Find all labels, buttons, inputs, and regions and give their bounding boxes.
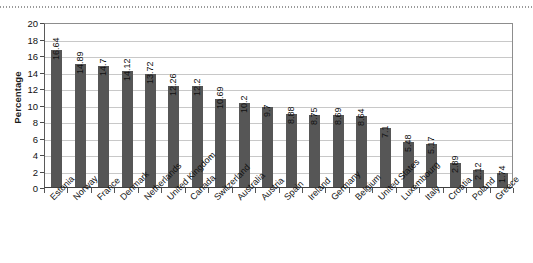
y-axis-tick-label: 4 [16, 150, 38, 161]
gridline [45, 41, 512, 42]
gridline [45, 90, 512, 91]
bar-value-label: 14.7 [98, 58, 108, 76]
bar-value-label: 9.7 [262, 104, 272, 117]
gridline [45, 123, 512, 124]
y-axis-tick-label: 20 [16, 18, 38, 29]
y-axis-tick-label: 12 [16, 84, 38, 95]
bar [98, 66, 109, 187]
bar-value-label: 2.12 [473, 162, 483, 180]
gridline [45, 173, 512, 174]
y-axis-tick-mark [40, 139, 44, 140]
bar-value-label: 12.26 [168, 73, 178, 96]
y-axis-tick-mark [40, 155, 44, 156]
gridline [45, 140, 512, 141]
y-axis-tick-mark [40, 73, 44, 74]
y-axis-tick-mark [40, 56, 44, 57]
bar-chart: Percentage 16.6414.8914.714.1213.7212.26… [0, 0, 533, 263]
top-dotted-divider [0, 6, 533, 8]
bar-value-label: 13.72 [145, 61, 155, 84]
bar [286, 114, 297, 187]
bar [215, 99, 226, 187]
bar [122, 71, 133, 187]
y-axis-tick-label: 0 [16, 183, 38, 194]
bar-value-label: 14.12 [122, 58, 132, 81]
bar-value-label: 8.69 [333, 108, 343, 126]
gridline [45, 107, 512, 108]
bar [51, 50, 62, 187]
y-axis-tick-mark [40, 172, 44, 173]
bar-value-label: 8.64 [356, 108, 366, 126]
x-axis-tick-mark [44, 188, 45, 193]
y-axis-tick-label: 16 [16, 51, 38, 62]
bar-value-label: 14.89 [75, 52, 85, 75]
y-axis-tick-label: 6 [16, 133, 38, 144]
bar-value-label: 1.74 [497, 165, 507, 183]
bar-value-label: 2.89 [450, 156, 460, 174]
gridline [45, 74, 512, 75]
bar-value-label: 10.2 [239, 95, 249, 113]
plot-area: 16.6414.8914.714.1213.7212.2612.210.6910… [44, 23, 513, 188]
bar [145, 74, 156, 187]
bar [75, 64, 86, 187]
y-axis-tick-label: 14 [16, 67, 38, 78]
y-axis-tick-mark [40, 89, 44, 90]
bar [309, 115, 320, 187]
x-axis-tick-mark [443, 188, 444, 193]
bar-value-label: 5.17 [426, 137, 436, 155]
bar-value-label: 5.48 [403, 134, 413, 152]
y-axis-tick-label: 8 [16, 117, 38, 128]
bar-value-label: 12.2 [192, 79, 202, 97]
y-axis-tick-mark [40, 23, 44, 24]
gridline [45, 156, 512, 157]
y-axis-tick-mark [40, 122, 44, 123]
bar-value-label: 16.64 [51, 37, 61, 60]
y-axis-tick-label: 10 [16, 100, 38, 111]
bar-value-label: 8.75 [309, 107, 319, 125]
bar-value-label: 8.88 [286, 106, 296, 124]
bar-value-label: 10.69 [215, 86, 225, 109]
gridline [45, 57, 512, 58]
y-axis-tick-label: 2 [16, 166, 38, 177]
y-axis-tick-label: 18 [16, 34, 38, 45]
bar-value-label: 7.1 [380, 126, 390, 139]
bar [333, 115, 344, 187]
y-axis-tick-mark [40, 40, 44, 41]
y-axis-tick-mark [40, 106, 44, 107]
